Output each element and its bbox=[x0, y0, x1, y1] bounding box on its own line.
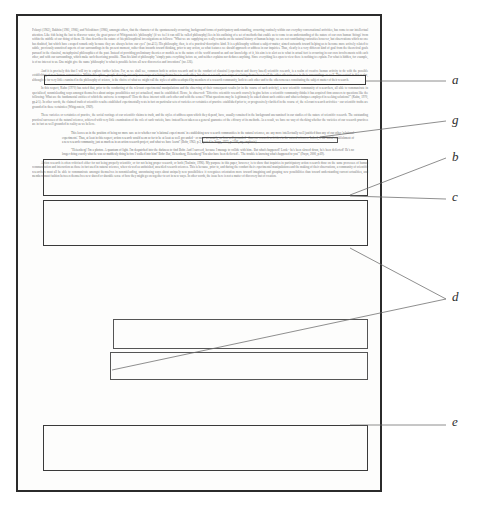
blockquote-1: This leaves us in the position of being … bbox=[32, 131, 368, 145]
paragraph-2: And it is precisely this that I will try… bbox=[32, 69, 368, 83]
annotation-marker-d: d bbox=[452, 290, 459, 303]
paragraph-3: In this respect, Kuhn (1970) has noted t… bbox=[32, 86, 368, 109]
quote-frayn: "Heisenberg! I'm a photon. A quantum of … bbox=[62, 148, 354, 157]
annotation-marker-a: a bbox=[452, 73, 459, 86]
annotation-marker-g: g bbox=[452, 113, 459, 126]
quote-bohr: This leaves us in the position of being … bbox=[62, 131, 354, 145]
paragraph-4: These varieties or certainties of practi… bbox=[32, 113, 368, 127]
paragraph-1: Polanyi (1962), Bakhtin (1981, 1986), an… bbox=[32, 28, 368, 64]
annotation-marker-b: b bbox=[452, 150, 459, 163]
scanned-page: Polanyi (1962), Bakhtin (1981, 1986), an… bbox=[16, 14, 382, 492]
page-content: Polanyi (1962), Bakhtin (1981, 1986), an… bbox=[18, 16, 380, 490]
annotation-marker-c: c bbox=[452, 190, 458, 203]
annotation-marker-e: e bbox=[452, 415, 458, 428]
paragraph-7: Action research is often criticised eith… bbox=[32, 161, 368, 179]
blockquote-2: "Heisenberg! I'm a photon. A quantum of … bbox=[32, 148, 368, 157]
